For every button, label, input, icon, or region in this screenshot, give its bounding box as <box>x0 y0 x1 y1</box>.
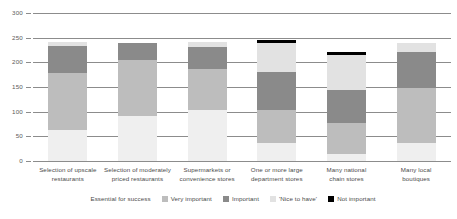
bar-segment[interactable] <box>188 47 227 69</box>
legend-item[interactable]: Very important <box>162 196 212 202</box>
legend-swatch-icon <box>223 196 229 202</box>
bar-stack[interactable] <box>327 52 366 161</box>
bar-segment[interactable] <box>48 130 87 161</box>
legend-label: Important <box>232 196 259 202</box>
bar-group <box>48 13 87 161</box>
bar-segment[interactable] <box>48 73 87 130</box>
y-tick-mark <box>26 38 31 39</box>
legend-label: Essential for success <box>90 196 150 202</box>
bar-segment[interactable] <box>397 143 436 161</box>
bar-segment[interactable] <box>397 43 436 53</box>
legend-item[interactable]: Important <box>223 196 259 202</box>
legend-item[interactable]: Not important <box>328 196 375 202</box>
x-axis-label: Many localboutiques <box>375 166 457 183</box>
legend-swatch-icon <box>270 196 276 202</box>
bar-group <box>397 13 436 161</box>
bar-segment[interactable] <box>397 52 436 88</box>
chart-legend: Essential for successVery importantImpor… <box>0 196 457 202</box>
legend-label: Very important <box>171 196 212 202</box>
y-tick-mark <box>26 136 31 137</box>
legend-item[interactable]: 'Nice to have' <box>270 196 317 202</box>
legend-swatch-icon <box>162 196 168 202</box>
legend-swatch-icon <box>328 196 334 202</box>
bar-group <box>188 13 227 161</box>
x-label-line: boutiques <box>375 175 457 184</box>
stacked-bar-chart: 050100150200250300 Selection of upscaler… <box>0 0 457 219</box>
y-tick-mark <box>26 161 31 162</box>
bar-stack[interactable] <box>257 40 296 161</box>
bar-segment[interactable] <box>327 55 366 90</box>
bar-segment[interactable] <box>48 46 87 73</box>
bar-segment[interactable] <box>257 110 296 143</box>
bar-segment[interactable] <box>118 43 157 60</box>
y-tick-label: 50 <box>16 133 23 139</box>
legend-item[interactable]: Essential for success <box>81 196 150 202</box>
bar-segment[interactable] <box>118 60 157 116</box>
gridline <box>33 161 451 162</box>
x-axis-labels: Selection of upscalerestaurantsSelection… <box>33 166 451 192</box>
bar-stack[interactable] <box>188 42 227 161</box>
bar-segment[interactable] <box>327 154 366 161</box>
bar-segment[interactable] <box>397 88 436 143</box>
bar-stack[interactable] <box>48 42 87 161</box>
y-axis: 050100150200250300 <box>0 13 31 161</box>
y-tick-mark <box>26 13 31 14</box>
bar-segment[interactable] <box>188 110 227 161</box>
bar-segment[interactable] <box>188 69 227 110</box>
y-tick-label: 150 <box>12 84 23 90</box>
y-tick-mark <box>26 62 31 63</box>
bar-group <box>257 13 296 161</box>
y-tick-mark <box>26 87 31 88</box>
bar-stack[interactable] <box>397 43 436 161</box>
bar-segment[interactable] <box>327 90 366 124</box>
y-tick-label: 250 <box>12 35 23 41</box>
bar-group <box>327 13 366 161</box>
y-tick-label: 300 <box>12 10 23 16</box>
x-label-line: Many local <box>375 166 457 175</box>
bar-segment[interactable] <box>118 116 157 161</box>
bar-segment[interactable] <box>257 72 296 110</box>
legend-label: Not important <box>337 196 375 202</box>
y-tick-label: 100 <box>12 109 23 115</box>
bars-layer <box>33 13 451 161</box>
bar-group <box>118 13 157 161</box>
bar-segment[interactable] <box>257 43 296 73</box>
legend-label: 'Nice to have' <box>279 196 317 202</box>
bar-segment[interactable] <box>257 143 296 161</box>
bar-stack[interactable] <box>118 43 157 161</box>
y-tick-label: 0 <box>19 158 23 164</box>
bar-segment[interactable] <box>327 123 366 154</box>
y-tick-label: 200 <box>12 59 23 65</box>
y-tick-mark <box>26 112 31 113</box>
